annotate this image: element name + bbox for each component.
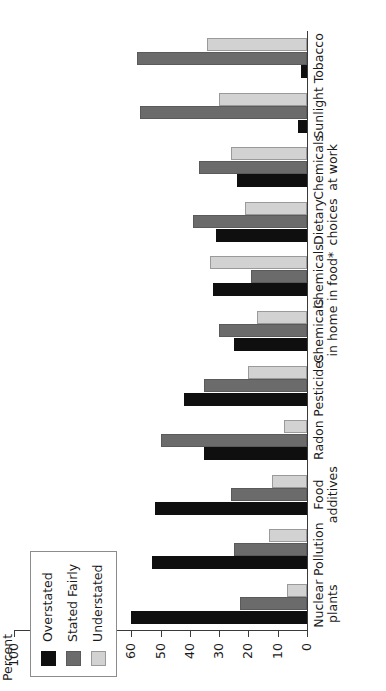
bar-group [14, 38, 307, 78]
bar-fairly [234, 543, 307, 556]
x-axis-category-labels: Nuclear plantsPollutionFood additivesRad… [312, 31, 372, 631]
bar-fairly [193, 215, 307, 228]
bar-overstated [298, 120, 307, 133]
bar-understated [245, 202, 307, 215]
bar-overstated [216, 229, 307, 242]
y-axis-tick-label: 100 [8, 643, 21, 667]
legend-item: Understated [91, 564, 106, 666]
bar-group [14, 256, 307, 296]
y-axis-tick [307, 631, 308, 637]
y-axis-tick [131, 631, 132, 637]
bar-overstated [301, 65, 307, 78]
y-axis-tick-label: 50 [154, 643, 167, 659]
bar-understated [207, 38, 307, 51]
bar-fairly [137, 52, 307, 65]
legend-label: Overstated [42, 572, 55, 642]
bar-group [14, 420, 307, 460]
x-axis-baseline [307, 31, 308, 631]
y-axis-tick-label: 0 [301, 643, 314, 651]
y-axis-tick [248, 631, 249, 637]
chart-legend: OverstatedStated FairlyUnderstated [30, 551, 117, 677]
bar-fairly [219, 325, 307, 338]
bar-understated [284, 420, 307, 433]
bar-understated [287, 584, 308, 597]
bar-group [14, 311, 307, 351]
bar-overstated [234, 338, 307, 351]
bar-overstated [213, 283, 307, 296]
bar-fairly [161, 434, 308, 447]
category-label: Tobacco [312, 23, 326, 94]
y-axis-tick [278, 631, 279, 637]
y-axis-tick [190, 631, 191, 637]
bar-understated [248, 366, 307, 379]
bar-overstated [131, 611, 307, 624]
plot-area [14, 31, 307, 631]
y-axis-tick-label: 30 [213, 643, 226, 659]
y-axis-tick [161, 631, 162, 637]
bar-understated [210, 256, 307, 269]
bar-overstated [184, 393, 307, 406]
y-axis-tick [219, 631, 220, 637]
legend-label: Stated Fairly [67, 564, 80, 642]
bar-understated [219, 93, 307, 106]
bar-understated [257, 311, 307, 324]
bar-group [14, 93, 307, 133]
bar-fairly [140, 106, 307, 119]
y-axis-tick [14, 631, 15, 637]
legend-swatch-fairly [66, 651, 81, 666]
rotated-page-wrapper: Percent 0102030405060708090100 Nuclear p… [0, 0, 386, 691]
bar-understated [272, 475, 307, 488]
legend-label: Understated [92, 565, 105, 642]
bar-group [14, 202, 307, 242]
y-axis-tick-label: 10 [271, 643, 284, 659]
bar-understated [231, 147, 307, 160]
bar-overstated [204, 447, 307, 460]
bar-fairly [204, 379, 307, 392]
bar-fairly [251, 270, 307, 283]
bar-group [14, 475, 307, 515]
legend-item: Stated Fairly [66, 564, 81, 666]
bar-overstated [237, 174, 307, 187]
bar-overstated [155, 502, 307, 515]
y-axis-tick-label: 20 [242, 643, 255, 659]
legend-item: Overstated [41, 564, 56, 666]
bar-chart-figure: Percent 0102030405060708090100 Nuclear p… [0, 0, 386, 691]
y-axis-tick-label: 40 [184, 643, 197, 659]
bar-fairly [199, 161, 307, 174]
bar-understated [269, 529, 307, 542]
legend-swatch-understated [91, 651, 106, 666]
bar-group [14, 147, 307, 187]
legend-swatch-overstated [41, 651, 56, 666]
bar-overstated [152, 556, 307, 569]
bar-fairly [240, 597, 307, 610]
bar-fairly [231, 488, 307, 501]
y-axis-tick-label: 60 [125, 643, 138, 659]
bar-group [14, 366, 307, 406]
